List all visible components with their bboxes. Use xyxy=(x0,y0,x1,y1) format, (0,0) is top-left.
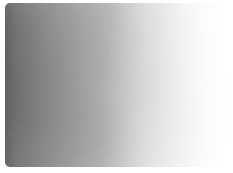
image-canvas xyxy=(0,0,233,173)
gradient-fill-layer xyxy=(5,3,233,167)
gradient-swatch xyxy=(5,3,233,167)
page-margin-bottom xyxy=(0,167,233,173)
